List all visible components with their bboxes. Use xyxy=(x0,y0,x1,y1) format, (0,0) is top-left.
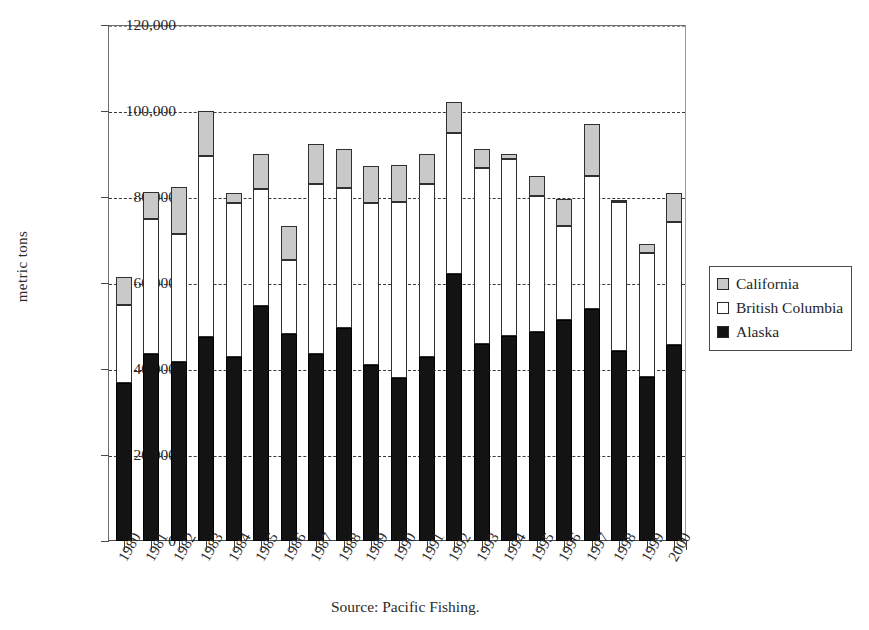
legend-label: British Columbia xyxy=(736,299,843,317)
bar-group[interactable] xyxy=(584,25,600,541)
bar-segment-british-columbia[interactable] xyxy=(556,226,572,320)
bar-group[interactable] xyxy=(226,25,242,541)
bar-segment-british-columbia[interactable] xyxy=(308,184,324,354)
bar-segment-california[interactable] xyxy=(391,165,407,202)
bar-segment-california[interactable] xyxy=(308,144,324,184)
bar-group[interactable] xyxy=(446,25,462,541)
bar-segment-alaska[interactable] xyxy=(308,354,324,541)
bar-group[interactable] xyxy=(253,25,269,541)
bar-group[interactable] xyxy=(391,25,407,541)
bar-segment-california[interactable] xyxy=(474,149,490,168)
bar-group[interactable] xyxy=(529,25,545,541)
bar-group[interactable] xyxy=(171,25,187,541)
bar-segment-alaska[interactable] xyxy=(336,328,352,541)
bar-segment-alaska[interactable] xyxy=(171,362,187,541)
bar-segment-california[interactable] xyxy=(253,154,269,189)
bar-segment-alaska[interactable] xyxy=(666,345,682,542)
bar-segment-alaska[interactable] xyxy=(143,354,159,541)
bar-segment-british-columbia[interactable] xyxy=(391,202,407,378)
bar-segment-alaska[interactable] xyxy=(281,334,297,541)
bar-segment-british-columbia[interactable] xyxy=(253,189,269,306)
bar-segment-british-columbia[interactable] xyxy=(529,196,545,331)
bar-group[interactable] xyxy=(474,25,490,541)
bar-segment-british-columbia[interactable] xyxy=(281,260,297,334)
bar-segment-california[interactable] xyxy=(446,102,462,132)
bar-segment-british-columbia[interactable] xyxy=(639,253,655,377)
bar-group[interactable] xyxy=(501,25,517,541)
bar-segment-california[interactable] xyxy=(198,111,214,156)
bars-layer xyxy=(108,25,686,541)
bar-group[interactable] xyxy=(336,25,352,541)
bar-segment-california[interactable] xyxy=(639,244,655,253)
chart-legend: CaliforniaBritish ColumbiaAlaska xyxy=(709,266,852,351)
legend-swatch-icon xyxy=(717,326,729,338)
bar-segment-british-columbia[interactable] xyxy=(226,203,242,357)
bar-segment-alaska[interactable] xyxy=(501,336,517,541)
bar-segment-alaska[interactable] xyxy=(116,383,132,541)
bar-segment-california[interactable] xyxy=(226,193,242,204)
bar-segment-alaska[interactable] xyxy=(446,274,462,541)
bar-group[interactable] xyxy=(611,25,627,541)
bar-segment-california[interactable] xyxy=(611,200,627,202)
bar-segment-california[interactable] xyxy=(116,277,132,305)
legend-label: California xyxy=(736,275,799,293)
bar-segment-california[interactable] xyxy=(666,193,682,222)
bar-segment-british-columbia[interactable] xyxy=(584,176,600,308)
bar-segment-alaska[interactable] xyxy=(198,337,214,541)
bar-segment-british-columbia[interactable] xyxy=(143,219,159,355)
bar-segment-british-columbia[interactable] xyxy=(666,222,682,345)
bar-segment-british-columbia[interactable] xyxy=(171,234,187,362)
legend-label: Alaska xyxy=(736,323,779,341)
bar-segment-california[interactable] xyxy=(363,166,379,203)
bar-segment-british-columbia[interactable] xyxy=(419,184,435,357)
legend-item[interactable]: California xyxy=(717,272,844,296)
bar-segment-alaska[interactable] xyxy=(529,332,545,541)
legend-swatch-icon xyxy=(717,302,729,314)
bar-group[interactable] xyxy=(116,25,132,541)
bar-segment-british-columbia[interactable] xyxy=(446,133,462,275)
bar-segment-alaska[interactable] xyxy=(253,306,269,541)
bar-segment-british-columbia[interactable] xyxy=(611,202,627,351)
bar-segment-california[interactable] xyxy=(556,199,572,227)
bar-segment-alaska[interactable] xyxy=(639,377,655,541)
bar-group[interactable] xyxy=(308,25,324,541)
bar-group[interactable] xyxy=(143,25,159,541)
bar-segment-british-columbia[interactable] xyxy=(474,168,490,343)
bar-segment-alaska[interactable] xyxy=(419,357,435,541)
source-note: Source: Pacific Fishing. xyxy=(331,598,480,616)
bar-segment-alaska[interactable] xyxy=(391,378,407,541)
bar-segment-alaska[interactable] xyxy=(363,365,379,541)
legend-swatch-icon xyxy=(717,278,729,290)
bar-group[interactable] xyxy=(363,25,379,541)
bar-segment-alaska[interactable] xyxy=(584,309,600,541)
x-tick-mark xyxy=(686,541,687,550)
bar-segment-california[interactable] xyxy=(529,176,545,197)
bar-segment-alaska[interactable] xyxy=(556,320,572,541)
bar-segment-california[interactable] xyxy=(584,124,600,176)
bar-group[interactable] xyxy=(666,25,682,541)
bar-segment-alaska[interactable] xyxy=(226,357,242,541)
bar-segment-california[interactable] xyxy=(171,187,187,234)
stacked-bar-chart: metric tons 020,00040,00060,00080,000100… xyxy=(0,0,869,630)
bar-group[interactable] xyxy=(556,25,572,541)
bar-segment-british-columbia[interactable] xyxy=(363,203,379,364)
bar-group[interactable] xyxy=(281,25,297,541)
bar-group[interactable] xyxy=(639,25,655,541)
bar-segment-british-columbia[interactable] xyxy=(501,159,517,336)
bar-segment-alaska[interactable] xyxy=(474,344,490,541)
bar-segment-california[interactable] xyxy=(336,149,352,188)
bar-segment-california[interactable] xyxy=(143,192,159,219)
bar-segment-british-columbia[interactable] xyxy=(336,188,352,329)
y-tick-mark xyxy=(101,541,109,542)
legend-item[interactable]: Alaska xyxy=(717,320,844,344)
bar-group[interactable] xyxy=(198,25,214,541)
y-axis-title: metric tons xyxy=(14,212,31,322)
legend-item[interactable]: British Columbia xyxy=(717,296,844,320)
bar-segment-california[interactable] xyxy=(281,226,297,260)
bar-segment-california[interactable] xyxy=(419,154,435,184)
bar-segment-british-columbia[interactable] xyxy=(116,305,132,384)
bar-segment-alaska[interactable] xyxy=(611,351,627,541)
bar-group[interactable] xyxy=(419,25,435,541)
bar-segment-british-columbia[interactable] xyxy=(198,156,214,337)
bar-segment-california[interactable] xyxy=(501,154,517,159)
